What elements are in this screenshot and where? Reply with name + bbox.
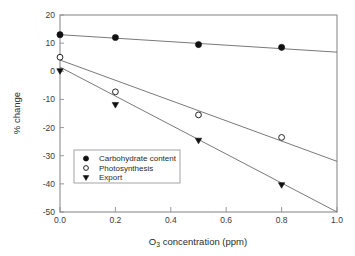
y-axis-tick-labels: 20 10 0 -10 -20 -30 -40 -50 — [43, 10, 56, 217]
y-tick-label: 20 — [46, 10, 56, 20]
data-point — [196, 112, 202, 118]
scatter-plot: 20 10 0 -10 -20 -30 -40 -50 0.0 0.2 0.4 … — [0, 0, 355, 256]
data-point — [57, 54, 63, 60]
y-tick-label: -30 — [43, 151, 56, 161]
chart-figure: 20 10 0 -10 -20 -30 -40 -50 0.0 0.2 0.4 … — [0, 0, 355, 256]
y-tick-label: -20 — [43, 123, 56, 133]
data-point — [112, 102, 118, 108]
x-axis-tick-labels: 0.0 0.2 0.4 0.6 0.8 1.0 — [54, 215, 343, 225]
x-axis-ticks — [60, 207, 337, 212]
data-point — [278, 183, 284, 189]
trend-line-photosynthesis — [60, 60, 337, 161]
legend-marker-filled-circle-icon — [83, 156, 88, 161]
y-tick-label: 10 — [46, 38, 56, 48]
x-tick-label: 1.0 — [331, 215, 343, 225]
data-point — [195, 41, 201, 47]
x-tick-label: 0.0 — [54, 215, 66, 225]
data-point — [112, 34, 118, 40]
data-point — [57, 32, 63, 38]
data-point — [279, 135, 285, 141]
x-axis-title: O3 concentration (ppm) — [149, 236, 247, 248]
data-point — [113, 89, 119, 95]
x-tick-label: 0.4 — [165, 215, 177, 225]
x-axis-title-rest: concentration (ppm) — [160, 236, 247, 247]
trend-lines — [60, 35, 337, 212]
x-tick-label: 0.6 — [220, 215, 232, 225]
y-tick-label: -40 — [43, 179, 56, 189]
y-axis-ticks — [60, 15, 64, 212]
legend-label-photosynthesis: Photosynthesis — [99, 164, 153, 173]
legend-marker-open-circle-icon — [84, 166, 89, 171]
x-tick-label: 0.8 — [276, 215, 288, 225]
legend-label-export: Export — [99, 173, 123, 182]
series-markers-carbohydrate-content — [57, 32, 285, 51]
legend-label-carbohydrate-content: Carbohydrate content — [99, 154, 177, 163]
y-tick-label: 0 — [50, 66, 55, 76]
data-point — [279, 44, 285, 50]
x-tick-label: 0.2 — [109, 215, 121, 225]
y-tick-label: -10 — [43, 94, 56, 104]
series-markers-photosynthesis — [57, 54, 284, 140]
legend[interactable]: Carbohydrate content Photosynthesis Expo… — [74, 150, 180, 183]
svg-text:O3 concentration (ppm): O3 concentration (ppm) — [149, 236, 247, 248]
y-axis-title: % change — [11, 92, 22, 134]
x-axis-title-base: O — [149, 236, 156, 247]
